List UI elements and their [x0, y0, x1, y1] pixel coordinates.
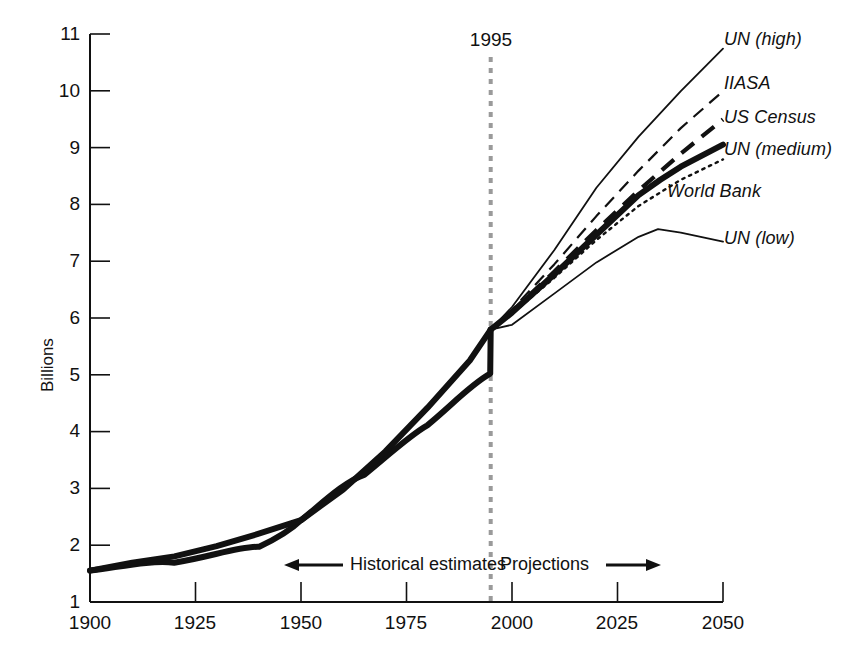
series-iiasa — [491, 91, 723, 329]
series-historical-estimates-shape — [90, 330, 491, 571]
series-label-un-high: UN (high) — [724, 29, 802, 50]
x-tick-label-2000: 2000 — [472, 612, 552, 634]
y-tick-label-2: 2 — [22, 534, 80, 556]
historical-estimates-annotation: Historical estimates — [350, 554, 506, 575]
historical-arrow-icon — [284, 559, 343, 571]
series-label-us-census: US Census — [724, 107, 816, 128]
x-tick-label-1950: 1950 — [261, 612, 341, 634]
y-tick-label-6: 6 — [22, 307, 80, 329]
projections-arrow-icon — [606, 559, 661, 571]
x-tick-label-2050: 2050 — [683, 612, 763, 634]
series-label-un-medium: UN (medium) — [724, 139, 832, 160]
series-label-un-low: UN (low) — [724, 228, 795, 249]
year-1995-label: 1995 — [451, 29, 531, 51]
y-axis-ticks — [90, 34, 110, 545]
x-tick-label-1975: 1975 — [366, 612, 446, 634]
series-un-low — [491, 229, 723, 329]
y-tick-label-11: 11 — [22, 23, 80, 45]
projections-annotation: Projections — [500, 554, 589, 575]
population-projection-chart: Billions 11 10 9 8 7 6 5 4 3 2 1 1900 19… — [0, 0, 867, 659]
y-tick-label-10: 10 — [22, 80, 80, 102]
y-tick-label-9: 9 — [22, 137, 80, 159]
axis-lines — [90, 34, 723, 602]
series-label-world-bank: World Bank — [667, 181, 761, 202]
series-label-iiasa: IIASA — [724, 73, 771, 94]
y-tick-label-4: 4 — [22, 420, 80, 442]
x-tick-label-1925: 1925 — [155, 612, 235, 634]
y-tick-label-3: 3 — [22, 477, 80, 499]
y-tick-label-7: 7 — [22, 250, 80, 272]
y-tick-label-5: 5 — [22, 364, 80, 386]
y-tick-label-1: 1 — [22, 591, 80, 613]
x-axis-ticks — [196, 582, 724, 602]
x-tick-label-1900: 1900 — [50, 612, 130, 634]
y-tick-label-8: 8 — [22, 193, 80, 215]
x-tick-label-2025: 2025 — [577, 612, 657, 634]
series-historical-estimates — [90, 330, 491, 571]
